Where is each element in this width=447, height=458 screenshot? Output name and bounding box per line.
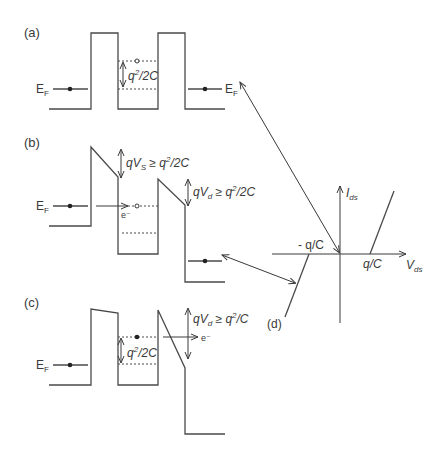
electron-dot-right <box>203 259 208 264</box>
panel-d-label: (d) <box>267 317 282 331</box>
fermi-level-right-label: EF <box>225 82 238 98</box>
resonant-barrier-profile <box>49 309 225 434</box>
panel-d: Ids Vds - q/C q/C (d) <box>222 82 422 331</box>
empty-state-icon <box>135 204 139 208</box>
panel-b-label: (b) <box>24 135 40 150</box>
electron-dot-left <box>68 363 73 368</box>
panel-b: (b) e⁻ qVS ≥ q2/2C qVd ≥ q2/2C EF <box>24 135 256 282</box>
negative-threshold-label: - q/C <box>298 238 324 252</box>
drain-voltage-label: qVd ≥ q2/C <box>193 311 249 328</box>
electron-dot-left <box>68 204 73 209</box>
connector-arrow-b <box>222 255 295 283</box>
coulomb-blockade-diagram: (a) q2/2C EF EF (b) e⁻ qVS ≥ q2/2C qVd ≥… <box>0 0 447 458</box>
diagram-svg: (a) q2/2C EF EF (b) e⁻ qVS ≥ q2/2C qVd ≥… <box>0 0 447 458</box>
electron-label: e⁻ <box>121 210 131 220</box>
fermi-level-left-label: EF <box>36 199 49 215</box>
connector-arrow-a <box>240 82 339 252</box>
electron-label: e⁻ <box>201 333 211 343</box>
fermi-level-left-label: EF <box>36 82 49 98</box>
empty-state-icon <box>135 59 139 63</box>
occupied-state-icon <box>135 335 140 340</box>
negative-current-branch <box>285 254 309 317</box>
y-axis-label: Ids <box>346 186 358 202</box>
panel-c: (c) e⁻ q2/2C qVd ≥ q2/C EF <box>24 295 249 434</box>
panel-c-label: (c) <box>24 295 39 310</box>
electron-dot-left <box>68 87 73 92</box>
gap-label: q2/2C <box>127 345 157 360</box>
x-axis-label: Vds <box>406 258 422 274</box>
drain-voltage-label: qVd ≥ q2/2C <box>193 184 256 201</box>
positive-current-branch <box>370 191 394 254</box>
panel-a-label: (a) <box>24 25 40 40</box>
fermi-level-left-label: EF <box>36 358 49 374</box>
electron-dot-right <box>203 87 208 92</box>
gap-label: q2/2C <box>128 68 158 83</box>
panel-a: (a) q2/2C EF EF <box>24 25 238 109</box>
positive-threshold-label: q/C <box>363 257 382 271</box>
source-voltage-label: qVS ≥ q2/2C <box>126 155 189 172</box>
